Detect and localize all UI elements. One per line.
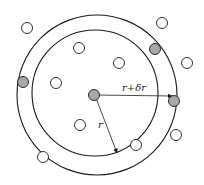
particle <box>157 18 168 29</box>
particle <box>38 152 49 163</box>
particle <box>51 78 62 89</box>
particle <box>182 58 193 69</box>
particle <box>74 43 85 54</box>
central-particle <box>89 90 100 101</box>
shell-diagram: r+δr r <box>0 0 204 185</box>
inner-radius-label: r <box>98 119 104 130</box>
particle <box>22 23 33 34</box>
particle <box>131 140 142 151</box>
particle <box>114 58 125 69</box>
particle <box>171 130 182 141</box>
shell-particle <box>169 96 180 107</box>
outer-radius-arrow <box>96 95 172 96</box>
shell-particle <box>18 77 29 88</box>
particles-group <box>18 18 193 163</box>
shell-particle <box>150 44 161 55</box>
particle <box>75 120 86 131</box>
outer-radius-label: r+δr <box>122 82 147 93</box>
